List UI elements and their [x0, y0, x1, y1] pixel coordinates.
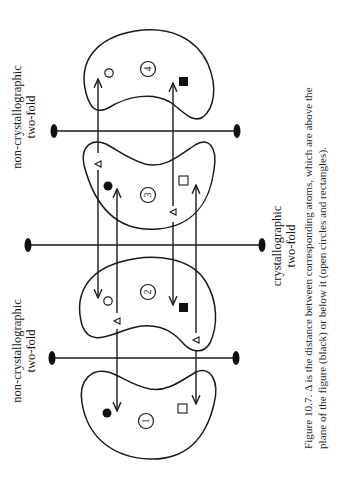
open-circle-atom: [104, 297, 112, 305]
delta-icon: [114, 318, 120, 324]
filled-square-atom: [179, 77, 188, 86]
caption-line1: Figure 10.7. Δ is the distance between c…: [302, 47, 316, 449]
caption-line2: plane of the figure (black) or below it …: [316, 47, 330, 449]
crystallographic-axis-label: crystallographic two-fold: [270, 198, 300, 294]
molecule-4-number: 4: [141, 63, 155, 75]
figure-caption: Figure 10.7. Δ is the distance between c…: [302, 47, 330, 449]
bottom-axis-label-line1: non-crystallographic: [10, 289, 24, 413]
open-square-atom: [178, 404, 187, 413]
molecule-2-number: 2: [141, 286, 155, 298]
top-axis-label-line2: two-fold: [24, 55, 38, 179]
open-square-atom: [179, 176, 188, 185]
crystallographic-axis-label-line2: two-fold: [284, 198, 298, 294]
top-axis-label: non-crystallographic two-fold: [10, 55, 40, 179]
filled-circle-atom: [103, 409, 112, 418]
open-circle-atom: [105, 69, 113, 77]
non-crystallographic-two-fold-axis-bottom: [49, 351, 240, 365]
filled-square-atom: [179, 303, 188, 312]
top-axis-label-line1: non-crystallographic: [10, 55, 24, 179]
delta-icon: [170, 209, 176, 215]
figure: 4 3 2 1 non-crystallographic two-fold no…: [0, 0, 349, 485]
molecule-3-number: 3: [141, 189, 155, 201]
molecule-3: [83, 142, 215, 229]
molecule-1-number: 1: [139, 415, 153, 427]
crystallographic-axis-label-line1: crystallographic: [270, 198, 284, 294]
crystallographic-two-fold-axis: [25, 238, 266, 252]
delta-icon: [95, 161, 101, 167]
bottom-axis-label: non-crystallographic two-fold: [10, 289, 40, 413]
non-crystallographic-two-fold-axis-top: [51, 124, 241, 138]
bottom-axis-label-line2: two-fold: [24, 289, 38, 413]
filled-circle-atom: [104, 182, 113, 191]
molecule-2: [80, 257, 216, 350]
delta-icon: [193, 337, 199, 343]
